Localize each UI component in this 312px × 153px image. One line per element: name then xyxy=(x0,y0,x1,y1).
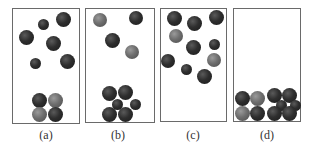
molecule xyxy=(186,40,201,55)
panel-b-label: (b) xyxy=(103,128,133,143)
molecule xyxy=(32,93,47,108)
panel-d-label: (d) xyxy=(252,128,282,143)
panel-a xyxy=(12,8,80,124)
molecule xyxy=(169,29,183,43)
molecule xyxy=(118,85,133,100)
molecule xyxy=(105,33,120,48)
panel-d xyxy=(233,8,301,122)
molecule xyxy=(38,19,49,30)
molecule xyxy=(181,64,192,75)
molecule xyxy=(250,106,265,121)
panel-b xyxy=(85,8,155,123)
molecule xyxy=(187,16,202,31)
molecule xyxy=(209,10,224,25)
molecule xyxy=(60,54,75,69)
molecule xyxy=(250,91,265,106)
molecule xyxy=(235,91,250,106)
molecule xyxy=(56,12,71,27)
molecule xyxy=(93,13,107,27)
molecule xyxy=(46,36,61,51)
molecule xyxy=(197,69,212,84)
molecule xyxy=(32,107,47,122)
molecule xyxy=(118,107,133,122)
panel-c-label: (c) xyxy=(178,128,208,143)
molecule xyxy=(207,53,221,67)
molecule xyxy=(125,45,139,59)
molecule xyxy=(209,39,220,50)
panel-c xyxy=(160,8,227,122)
molecule xyxy=(167,11,182,26)
molecule xyxy=(30,58,41,69)
molecule xyxy=(282,106,297,121)
molecule xyxy=(48,93,63,108)
molecule xyxy=(267,106,282,121)
molecule xyxy=(102,107,117,122)
molecule xyxy=(129,11,143,25)
molecule xyxy=(19,30,34,45)
molecule xyxy=(130,99,141,110)
molecule xyxy=(48,107,63,122)
molecule xyxy=(235,106,250,121)
molecule xyxy=(161,54,175,68)
panel-a-label: (a) xyxy=(31,128,61,143)
